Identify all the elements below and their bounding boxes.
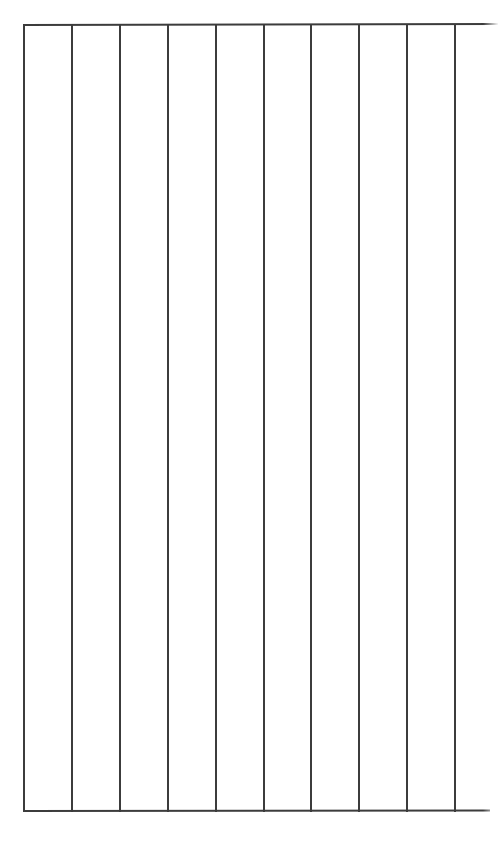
table-cell[interactable] xyxy=(217,26,263,810)
table-cell[interactable] xyxy=(169,26,215,810)
table-cell[interactable] xyxy=(73,26,119,810)
page xyxy=(0,0,501,841)
table-cell[interactable] xyxy=(25,26,71,810)
table-cell[interactable] xyxy=(312,26,358,810)
table-cell[interactable] xyxy=(360,26,406,810)
table-cell[interactable] xyxy=(121,26,167,810)
table-cell[interactable] xyxy=(408,26,454,810)
table-cells xyxy=(0,0,501,841)
table-cell[interactable] xyxy=(265,26,310,810)
table-cell[interactable] xyxy=(456,26,492,810)
